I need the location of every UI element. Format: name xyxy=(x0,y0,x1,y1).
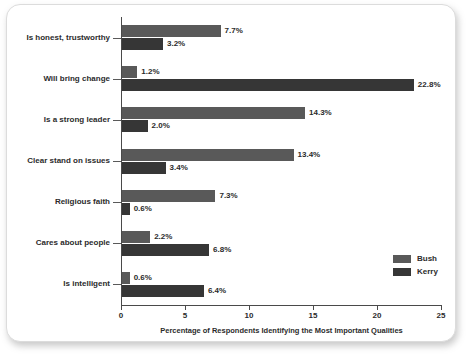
x-axis-line xyxy=(121,305,442,306)
bar-kerry xyxy=(122,203,130,215)
bar-value-label: 2.0% xyxy=(152,121,170,130)
legend-item-bush[interactable]: Bush xyxy=(393,252,438,265)
y-tick-mark xyxy=(113,243,121,244)
y-tick-mark xyxy=(113,202,121,203)
x-tick-mark xyxy=(121,306,122,310)
x-tick-label: 20 xyxy=(357,311,397,320)
x-tick-label: 0 xyxy=(101,311,141,320)
x-tick-label: 5 xyxy=(165,311,205,320)
bar-value-label: 1.2% xyxy=(141,67,159,76)
x-tick-mark xyxy=(249,306,250,310)
bar-value-label: 0.6% xyxy=(134,204,152,213)
bar-value-label: 2.2% xyxy=(154,232,172,241)
bar-value-label: 0.6% xyxy=(134,273,152,282)
bar-kerry xyxy=(122,38,163,50)
bar-value-label: 7.3% xyxy=(219,191,237,200)
x-tick-label: 15 xyxy=(293,311,333,320)
category-label: Clear stand on issues xyxy=(27,156,110,165)
x-tick-mark xyxy=(313,306,314,310)
bar-value-label: 3.2% xyxy=(167,39,185,48)
category-label: Religious faith xyxy=(55,197,110,206)
bar-kerry xyxy=(122,120,148,132)
bar-value-label: 6.4% xyxy=(208,286,226,295)
x-tick-label: 10 xyxy=(229,311,269,320)
bar-chart: 7.7%3.2%1.2%22.8%14.3%2.0%13.4%3.4%7.3%0… xyxy=(0,0,466,359)
x-tick-mark xyxy=(441,306,442,310)
legend-item-kerry[interactable]: Kerry xyxy=(393,265,438,278)
y-tick-mark xyxy=(113,79,121,80)
category-label: Cares about people xyxy=(36,238,110,247)
bar-bush xyxy=(122,272,130,284)
bar-value-label: 22.8% xyxy=(418,80,441,89)
x-axis-title: Percentage of Respondents Identifying th… xyxy=(121,326,442,335)
bar-value-label: 6.8% xyxy=(213,245,231,254)
y-tick-mark xyxy=(113,38,121,39)
bar-bush xyxy=(122,231,150,243)
bar-kerry xyxy=(122,285,204,297)
legend-swatch-icon xyxy=(393,268,411,276)
bar-kerry xyxy=(122,79,414,91)
bar-value-label: 14.3% xyxy=(309,108,332,117)
bar-value-label: 7.7% xyxy=(225,26,243,35)
legend-label: Bush xyxy=(417,254,437,263)
x-tick-mark xyxy=(185,306,186,310)
bar-value-label: 13.4% xyxy=(298,150,321,159)
x-tick-mark xyxy=(377,306,378,310)
bar-kerry xyxy=(122,162,166,174)
category-label: Is a strong leader xyxy=(44,115,110,124)
bar-value-label: 3.4% xyxy=(170,163,188,172)
category-label: Is intelligent xyxy=(63,279,110,288)
category-label: Is honest, trustworthy xyxy=(26,33,110,42)
y-tick-mark xyxy=(113,161,121,162)
y-tick-mark xyxy=(113,284,121,285)
bar-bush xyxy=(122,66,137,78)
bar-bush xyxy=(122,107,305,119)
bar-bush xyxy=(122,190,215,202)
x-tick-label: 25 xyxy=(421,311,461,320)
bar-bush xyxy=(122,149,294,161)
bar-bush xyxy=(122,25,221,37)
legend-swatch-icon xyxy=(393,255,411,263)
chart-legend: BushKerry xyxy=(393,252,438,278)
y-tick-mark xyxy=(113,120,121,121)
bar-kerry xyxy=(122,244,209,256)
category-label: Will bring change xyxy=(43,74,110,83)
legend-label: Kerry xyxy=(417,267,438,276)
